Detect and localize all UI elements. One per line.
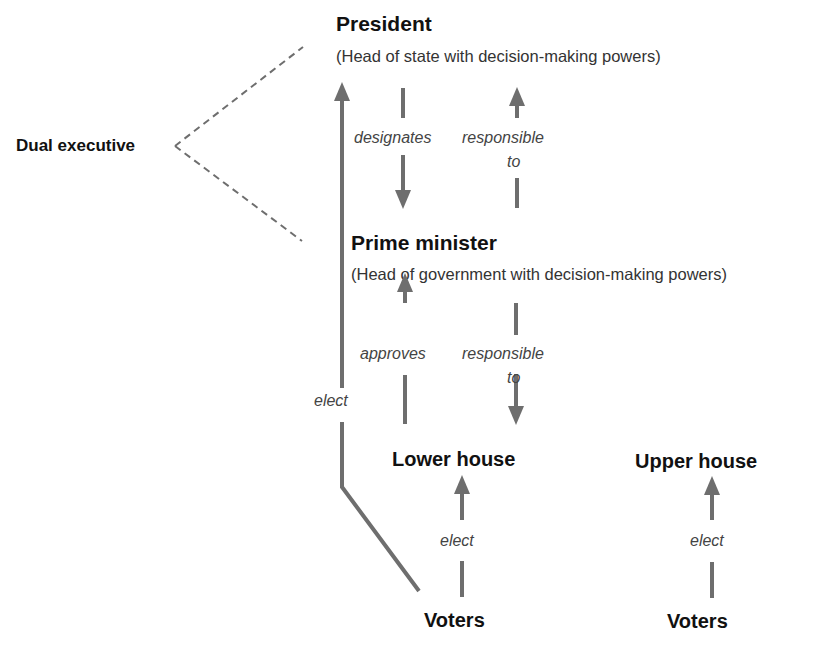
edge-voters-elect-upper-house: elect: [690, 476, 724, 598]
lower-house-title: Lower house: [392, 448, 515, 470]
arrow-up-icon: [509, 87, 525, 106]
approves-label: approves: [360, 345, 426, 362]
dual-executive-label: Dual executive: [16, 136, 135, 155]
president-title: President: [336, 12, 432, 35]
prime-minister-title: Prime minister: [351, 231, 497, 254]
arrow-down-icon: [395, 190, 411, 209]
responsible-label-line2: to: [507, 153, 520, 170]
elect-president-label: elect: [314, 392, 348, 409]
responsible-lower-label-line2: to: [507, 369, 520, 386]
dashed-bracket-to-prime-minister: [175, 146, 302, 241]
arrow-up-icon: [334, 82, 350, 101]
elect-upper-label: elect: [690, 532, 724, 549]
arrow-down-icon: [508, 406, 524, 425]
edge-lower-house-approves-pm: approves: [360, 273, 426, 424]
voters-upper-title: Voters: [667, 610, 728, 632]
elect-lower-label: elect: [440, 532, 474, 549]
designates-label: designates: [354, 129, 431, 146]
president-subtitle: (Head of state with decision-making powe…: [336, 47, 661, 65]
dual-executive-diagram: Dual executive President (Head of state …: [0, 0, 836, 654]
upper-house-title: Upper house: [635, 450, 757, 472]
edge-voters-elect-lower-house: elect: [440, 475, 474, 597]
edge-pm-responsible-to-president: responsible to: [462, 87, 544, 208]
voters-lower-title: Voters: [424, 609, 485, 631]
responsible-lower-label-line1: responsible: [462, 345, 544, 362]
edge-president-designates-pm: designates: [354, 88, 431, 209]
responsible-label-line1: responsible: [462, 129, 544, 146]
node-prime-minister: Prime minister (Head of government with …: [351, 231, 727, 283]
edge-pm-responsible-to-lower-house: responsible to: [462, 303, 544, 425]
dashed-bracket-to-president: [175, 47, 303, 146]
dual-executive-group: Dual executive: [16, 47, 303, 241]
arrow-up-icon: [454, 475, 470, 494]
arrow-up-icon: [704, 476, 720, 495]
node-president: President (Head of state with decision-m…: [336, 12, 661, 65]
